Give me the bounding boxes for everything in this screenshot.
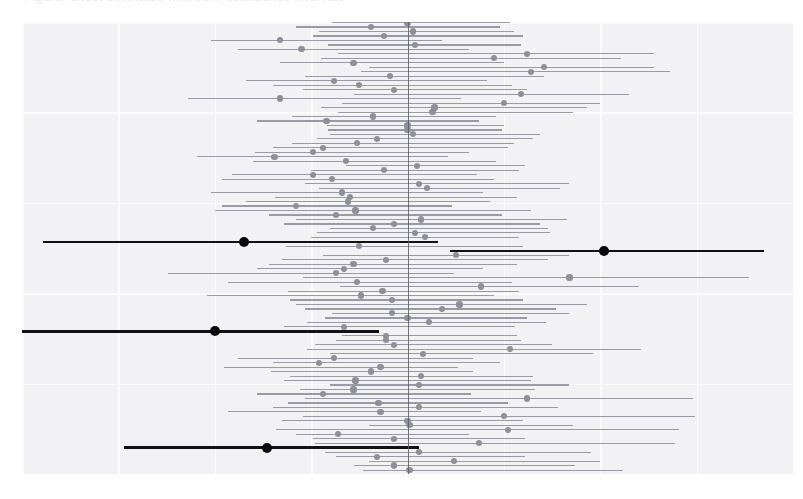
- confidence-interval-bar: [296, 304, 587, 305]
- point-estimate-marker: [331, 355, 337, 361]
- confidence-interval-bar: [257, 393, 471, 394]
- point-estimate-marker: [370, 113, 376, 119]
- point-estimate-marker: [352, 207, 358, 213]
- x-gridline-2: [215, 22, 217, 474]
- forest-plot-figure: Figure: effect estimates with 95% confid…: [0, 0, 803, 499]
- confidence-interval-bar: [354, 465, 576, 466]
- x-gridline-7: [697, 22, 699, 474]
- point-estimate-marker: [310, 149, 316, 155]
- confidence-interval-bar: [222, 179, 494, 180]
- confidence-interval-bar: [296, 434, 469, 435]
- point-estimate-marker: [422, 234, 428, 240]
- confidence-interval-bar: [228, 282, 511, 283]
- point-estimate-marker: [491, 55, 497, 61]
- confidence-interval-bar: [321, 58, 622, 59]
- confidence-interval-bar: [257, 268, 483, 269]
- confidence-interval-bar: [282, 420, 523, 421]
- confidence-interval-bar: [311, 170, 519, 171]
- point-estimate-marker: [420, 351, 426, 357]
- confidence-interval-bar: [342, 335, 517, 336]
- confidence-interval-bar: [280, 62, 504, 63]
- zero-reference-line: [408, 22, 409, 474]
- confidence-interval-bar: [228, 411, 481, 412]
- point-estimate-marker: [412, 42, 418, 48]
- confidence-interval-bar: [338, 112, 573, 113]
- confidence-interval-bar: [342, 103, 600, 104]
- point-estimate-marker: [368, 368, 374, 374]
- point-estimate-marker: [501, 413, 507, 419]
- confidence-interval-bar: [269, 264, 518, 265]
- confidence-interval-bar: [305, 398, 692, 399]
- point-estimate-marker: [541, 64, 547, 70]
- point-estimate-marker: [298, 46, 304, 52]
- confidence-interval-bar: [313, 438, 525, 439]
- point-estimate-marker: [271, 154, 277, 160]
- confidence-interval-bar: [22, 330, 379, 333]
- confidence-interval-bar: [321, 107, 587, 108]
- point-estimate-marker: [507, 346, 513, 352]
- confidence-interval-bar: [319, 188, 560, 189]
- point-estimate-marker: [476, 440, 482, 446]
- point-estimate-marker: [453, 252, 459, 258]
- point-estimate-marker: [391, 462, 397, 468]
- point-estimate-marker: [456, 301, 462, 307]
- clipped-title-sliver: Figure: effect estimates with 95% confid…: [0, 0, 803, 18]
- confidence-interval-bar: [313, 35, 523, 36]
- point-estimate-marker: [439, 306, 445, 312]
- point-estimate-marker: [518, 91, 524, 97]
- clipped-title-text: Figure: effect estimates with 95% confid…: [24, 0, 345, 4]
- point-estimate-marker: [389, 297, 395, 303]
- point-estimate-marker: [293, 203, 299, 209]
- point-estimate-marker: [478, 283, 484, 289]
- confidence-interval-bar: [330, 384, 569, 385]
- point-estimate-marker: [356, 243, 362, 249]
- confidence-interval-bar: [284, 223, 540, 224]
- confidence-interval-bar: [273, 362, 500, 363]
- confidence-interval-bar: [257, 120, 479, 121]
- confidence-interval-bar: [292, 116, 496, 117]
- confidence-interval-bar: [168, 273, 453, 274]
- point-estimate-marker: [524, 395, 530, 401]
- x-gridline-0: [22, 22, 24, 474]
- point-estimate-marker: [350, 386, 356, 392]
- point-estimate-marker: [379, 288, 385, 294]
- confidence-interval-bar: [317, 232, 550, 233]
- point-estimate-marker: [566, 274, 572, 280]
- point-estimate-marker: [431, 104, 437, 110]
- confidence-interval-bar: [232, 174, 477, 175]
- confidence-interval-bar: [315, 443, 675, 444]
- confidence-interval-bar: [369, 67, 654, 68]
- confidence-interval-bar: [340, 286, 639, 287]
- point-estimate-marker: [426, 319, 432, 325]
- confidence-interval-bar: [330, 353, 592, 354]
- confidence-interval-bar: [328, 129, 501, 130]
- confidence-interval-bar: [338, 53, 654, 54]
- confidence-interval-bar: [273, 147, 508, 148]
- confidence-interval-bar: [215, 210, 531, 211]
- point-estimate-marker: [412, 230, 418, 236]
- point-estimate-marker: [389, 310, 395, 316]
- point-estimate-marker: [331, 78, 337, 84]
- confidence-interval-bar: [369, 425, 573, 426]
- confidence-interval-bar: [290, 376, 533, 377]
- point-estimate-marker: [599, 246, 609, 256]
- confidence-interval-bar: [286, 246, 523, 247]
- confidence-interval-bar: [369, 461, 600, 462]
- point-estimate-marker: [424, 185, 430, 191]
- point-estimate-marker: [375, 400, 381, 406]
- point-estimate-marker: [528, 69, 534, 75]
- confidence-interval-bar: [332, 22, 509, 23]
- point-estimate-marker: [377, 364, 383, 370]
- confidence-interval-bar: [363, 470, 623, 471]
- confidence-interval-bar: [296, 219, 568, 220]
- confidence-interval-bar: [354, 94, 630, 95]
- confidence-interval-bar: [273, 85, 512, 86]
- point-estimate-marker: [310, 172, 316, 178]
- point-estimate-marker: [335, 431, 341, 437]
- point-estimate-marker: [381, 167, 387, 173]
- confidence-interval-bar: [269, 214, 502, 215]
- confidence-interval-bar: [300, 389, 535, 390]
- point-estimate-marker: [501, 100, 507, 106]
- point-estimate-marker: [387, 73, 393, 79]
- confidence-interval-bar: [197, 156, 448, 157]
